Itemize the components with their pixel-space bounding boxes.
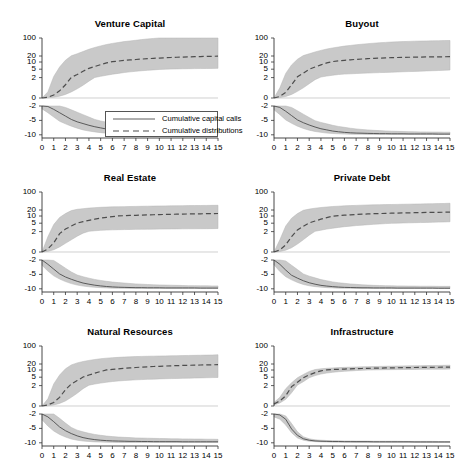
x-axis-tick-label: 15: [209, 451, 227, 458]
legend-label: Cumulative distributions: [162, 125, 243, 136]
y-axis-tick-label: 2: [2, 381, 36, 390]
y-axis-tick-label: -10: [234, 438, 268, 447]
chart-panel: Venture Capital1002010520-2-5-1001234567…: [2, 16, 224, 156]
figure-grid: Venture Capital1002010520-2-5-1001234567…: [0, 0, 464, 458]
chart-panel: Real Estate1002010520-2-5-10012345678910…: [2, 170, 224, 310]
y-axis-tick-label: -10: [2, 284, 36, 293]
solid-line-icon: [111, 113, 157, 124]
y-axis-tick-label: -5: [2, 115, 36, 124]
y-axis-tick-label: -2: [234, 255, 268, 264]
y-axis-tick-label: -2: [234, 101, 268, 110]
y-axis-tick-label: 100: [234, 187, 268, 196]
chart-panel: Buyout1002010520-2-5-1001234567891011121…: [234, 16, 456, 156]
y-axis-tick-label: -10: [2, 438, 36, 447]
y-axis-tick-label: -10: [234, 130, 268, 139]
dashed-line-icon: [111, 125, 157, 136]
y-axis-tick-label: -10: [234, 284, 268, 293]
x-axis-tick-label: 15: [209, 297, 227, 306]
y-axis-tick-label: 2: [234, 227, 268, 236]
x-axis-tick-label: 15: [441, 297, 459, 306]
legend: Cumulative capital callsCumulative distr…: [105, 111, 218, 137]
y-axis-tick-label: -10: [2, 130, 36, 139]
x-axis-tick-label: 15: [441, 451, 459, 458]
legend-entry: Cumulative distributions: [106, 125, 217, 136]
x-axis-tick-label: 15: [441, 143, 459, 152]
y-axis-tick-label: -5: [234, 115, 268, 124]
y-axis-tick-label: 2: [2, 227, 36, 236]
y-axis-tick-label: -2: [2, 255, 36, 264]
y-axis-tick-label: -2: [234, 409, 268, 418]
y-axis-tick-label: 100: [2, 341, 36, 350]
y-axis-tick-label: 2: [234, 381, 268, 390]
legend-label: Cumulative capital calls: [162, 113, 241, 124]
y-axis-tick-label: 100: [2, 33, 36, 42]
chart-panel: Infrastructure1002010520-2-5-10012345678…: [234, 324, 456, 458]
y-axis-tick-label: -2: [2, 409, 36, 418]
y-axis-tick-label: -5: [2, 423, 36, 432]
y-axis-tick-label: 100: [234, 33, 268, 42]
x-axis-tick-label: 15: [209, 143, 227, 152]
y-axis-tick-label: -2: [2, 101, 36, 110]
y-axis-tick-label: -5: [2, 269, 36, 278]
chart-panel: Private Debt1002010520-2-5-1001234567891…: [234, 170, 456, 310]
y-axis-tick-label: 2: [2, 73, 36, 82]
y-axis-tick-label: 100: [234, 341, 268, 350]
y-axis-tick-label: 2: [234, 73, 268, 82]
y-axis-tick-label: 100: [2, 187, 36, 196]
y-axis-tick-label: -5: [234, 423, 268, 432]
y-axis-tick-label: -5: [234, 269, 268, 278]
legend-entry: Cumulative capital calls: [106, 113, 217, 124]
chart-panel: Natural Resources1002010520-2-5-10012345…: [2, 324, 224, 458]
